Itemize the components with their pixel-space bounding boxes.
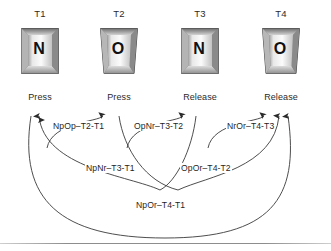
arc-npor-t4-t1 <box>29 116 291 238</box>
arc-label-npop-t2-t1: NpOp–T2-T1 <box>52 121 105 131</box>
arc-label-opnr-t3-t2: OpNr–T3-T2 <box>133 121 184 131</box>
arc-label-opor-t4-t2: OpOr–T4-T2 <box>180 163 232 173</box>
arc-label-nror-t4-t3: NrOr–T4-T3 <box>226 121 275 131</box>
keystroke-timing-figure: T1 T2 T3 T4 <box>0 0 331 251</box>
arc-label-npnr-t3-t1: NpNr–T3-T1 <box>85 163 136 173</box>
arc-label-npor-t4-t1: NpOr–T4-T1 <box>135 200 186 210</box>
figure-baseline <box>0 243 331 244</box>
